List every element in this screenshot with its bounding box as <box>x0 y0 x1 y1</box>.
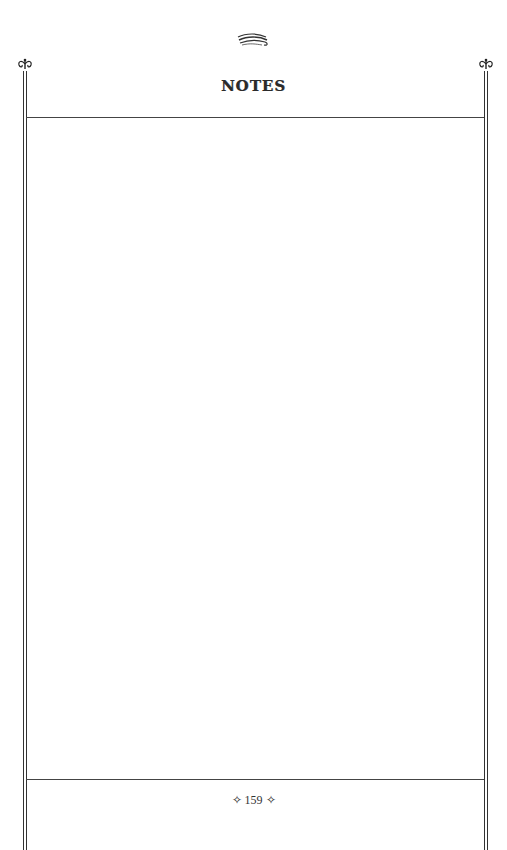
page-number: ✧ 159 ✧ <box>0 793 507 808</box>
right-border-rule-inner <box>484 71 485 850</box>
swash-flourish-icon <box>236 32 270 48</box>
left-border-rule-outer <box>23 71 24 850</box>
right-border-rule-outer <box>487 71 488 850</box>
footer-divider <box>26 779 484 780</box>
fleur-finial-icon <box>478 58 494 70</box>
fleur-finial-icon <box>17 58 33 70</box>
notes-area <box>27 118 484 778</box>
page-title: NOTES <box>0 77 507 95</box>
